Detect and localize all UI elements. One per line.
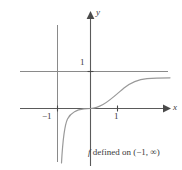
figure-caption: f defined on (−1, ∞) [88,148,160,158]
function-graph-figure: y x 1 −1 1 f defined on (−1, ∞) [0,0,182,170]
y-axis-arrow-icon [87,11,95,19]
x-tick-label-1: 1 [114,112,119,121]
x-tick-label-neg1: −1 [42,112,52,121]
graph-canvas [0,0,182,170]
x-axis-arrow-icon [163,105,171,113]
x-axis-label: x [173,103,177,112]
y-tick-label-1: 1 [80,58,85,67]
y-axis-label: y [96,8,100,17]
caption-domain-text: defined on (−1, ∞) [91,147,160,157]
